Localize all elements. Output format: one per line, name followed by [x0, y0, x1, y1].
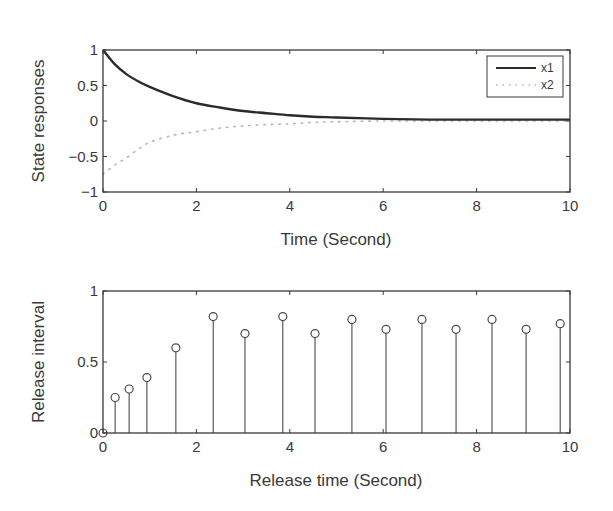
stem-marker: [172, 344, 180, 352]
x-tick-label: 4: [286, 438, 294, 455]
stem-marker: [522, 325, 530, 333]
stem-marker: [279, 313, 287, 321]
x-tick-label: 6: [379, 438, 387, 455]
y-tick-label: 1: [90, 282, 98, 299]
stem-marker: [111, 394, 119, 402]
legend-label-x2: x2: [541, 78, 554, 92]
stem-marker: [348, 315, 356, 323]
plot-area: [103, 291, 570, 433]
y-tick-label: 0: [90, 424, 98, 441]
y-tick-label: 0.5: [77, 353, 98, 370]
y-tick-label: −0.5: [68, 148, 98, 165]
stem-marker: [209, 313, 217, 321]
y-axis-label: State responses: [29, 60, 48, 183]
x-tick-label: 8: [472, 197, 480, 214]
x-tick-label: 10: [562, 197, 579, 214]
state-responses-chart: 0246810−1−0.500.51 Time (Second) State r…: [29, 41, 578, 249]
x-tick-label: 0: [99, 197, 107, 214]
x-tick-label: 2: [192, 197, 200, 214]
x-tick-label: 10: [562, 438, 579, 455]
stem-marker: [418, 315, 426, 323]
stem-marker: [382, 325, 390, 333]
legend-label-x1: x1: [541, 61, 554, 75]
x-tick-label: 4: [286, 197, 294, 214]
stem-marker: [556, 320, 564, 328]
stem-marker: [488, 315, 496, 323]
y-tick-label: 0.5: [77, 77, 98, 94]
x-tick-label: 8: [472, 438, 480, 455]
x-axis-label: Release time (Second): [250, 471, 423, 490]
figure: 0246810−1−0.500.51 Time (Second) State r…: [0, 0, 613, 511]
x-tick-label: 2: [192, 438, 200, 455]
stem-marker: [143, 374, 151, 382]
y-tick-label: 0: [90, 112, 98, 129]
stem-marker: [125, 385, 133, 393]
y-tick-label: 1: [90, 41, 98, 58]
y-tick-label: −1: [81, 183, 98, 200]
legend: x1 x2: [487, 56, 563, 97]
stem-marker: [241, 330, 249, 338]
release-interval-chart: 024681000.51 Release time (Second) Relea…: [29, 282, 578, 490]
x-tick-label: 0: [99, 438, 107, 455]
y-axis-label: Release interval: [29, 301, 48, 423]
x-axis-label: Time (Second): [281, 230, 392, 249]
stem-marker: [452, 325, 460, 333]
x-tick-label: 6: [379, 197, 387, 214]
stem-marker: [311, 330, 319, 338]
